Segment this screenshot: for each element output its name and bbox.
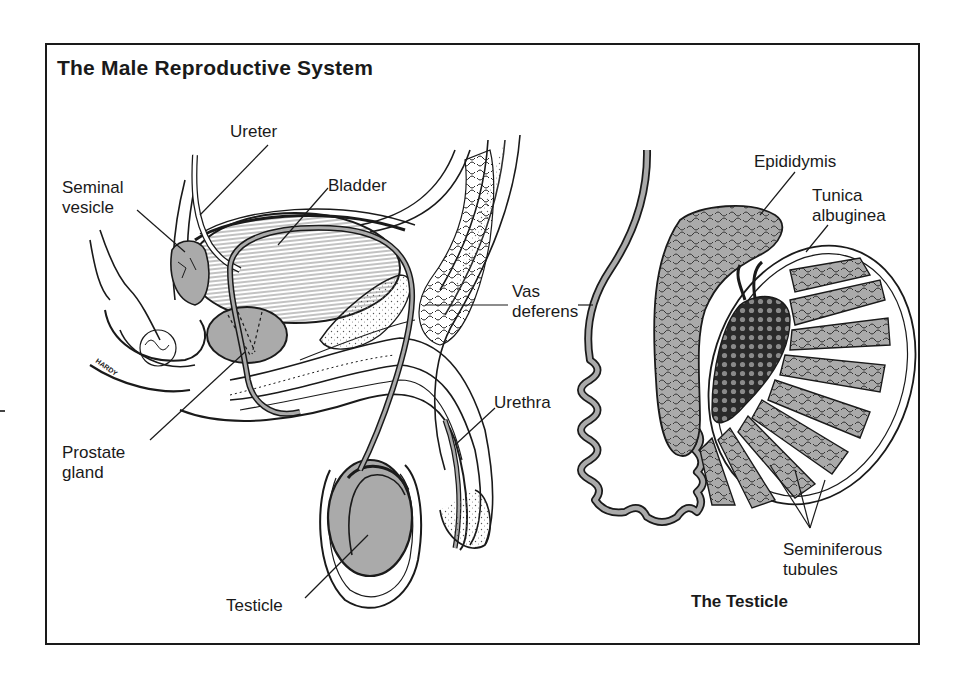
- sagittal-view: HARDY: [90, 135, 520, 608]
- label-testicle: Testicle: [226, 596, 283, 616]
- label-prostate-gland: Prostate gland: [62, 443, 125, 483]
- label-epididymis: Epididymis: [754, 152, 836, 172]
- label-tunica-albuginea: Tunica albuginea: [812, 186, 886, 226]
- label-ureter: Ureter: [230, 122, 277, 142]
- label-seminiferous-tubules: Seminiferous tubules: [783, 540, 882, 580]
- testicle-detail: [578, 150, 948, 531]
- label-vas-deferens: Vas deferens: [512, 282, 578, 322]
- label-seminal-vesicle: Seminal vesicle: [62, 178, 123, 218]
- label-bladder: Bladder: [328, 176, 387, 196]
- label-urethra: Urethra: [494, 393, 551, 413]
- testicle-subtitle: The Testicle: [691, 592, 788, 612]
